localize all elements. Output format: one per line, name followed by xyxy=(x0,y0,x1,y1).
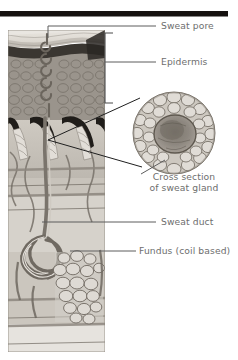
label-cross-section-line2: of sweat gland xyxy=(150,182,219,193)
label-sweat-duct: Sweat duct xyxy=(161,216,214,227)
top-dark-bar xyxy=(0,11,228,17)
label-sweat-pore: Sweat pore xyxy=(161,20,214,31)
sweat-gland-figure: Sweat pore Epidermis Cross section of sw… xyxy=(0,0,238,360)
label-epidermis: Epidermis xyxy=(161,56,208,67)
label-fundus: Fundus (coil based) xyxy=(139,245,230,256)
skin-cross-section xyxy=(8,25,105,352)
label-cross-section-line1: Cross section xyxy=(153,171,216,182)
gland-acini-cluster xyxy=(53,251,104,324)
sweat-duct-descending xyxy=(44,118,47,236)
sweat-gland-cross-section-circle xyxy=(131,91,217,175)
epidermis-bracket xyxy=(105,33,113,103)
diagram-canvas: Sweat pore Epidermis Cross section of sw… xyxy=(0,0,238,360)
